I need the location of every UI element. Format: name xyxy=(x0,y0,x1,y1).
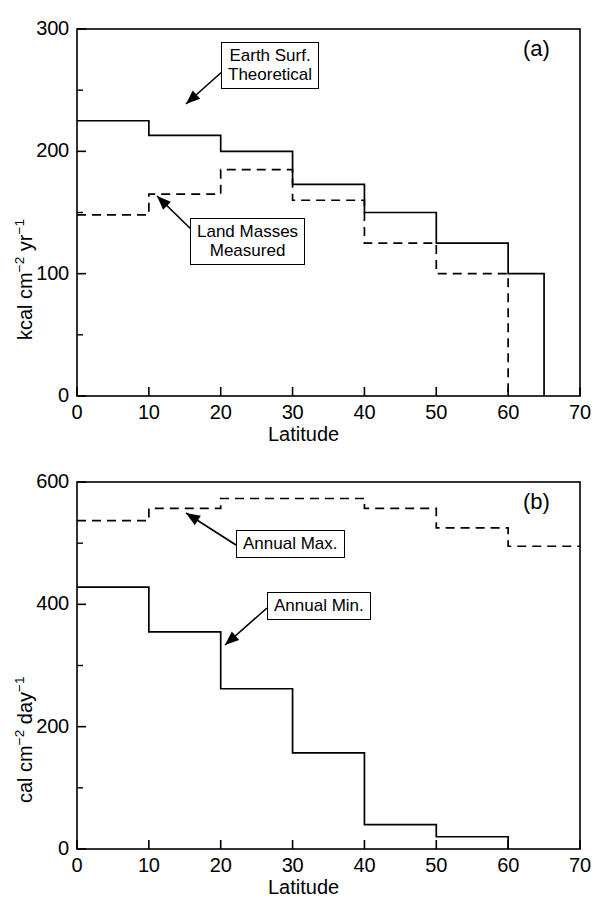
panel-b-xtick-label: 70 xyxy=(555,855,602,875)
callout-line-1: Land Masses xyxy=(197,222,298,241)
panel-b-xtick-label: 60 xyxy=(483,855,533,875)
panel-a-y-axis-title: kcal cm−2 yr−1 xyxy=(14,219,37,340)
panel-b-y-axis-title: cal cm−2 day−1 xyxy=(14,676,37,803)
y-axis-text: yr xyxy=(14,234,36,256)
y-axis-exponent: −1 xyxy=(12,219,27,235)
panel-b-ytick-label: 400 xyxy=(11,593,69,613)
y-axis-text: day xyxy=(14,692,36,730)
panel-a: 0 100 200 300 0 10 20 30 40 50 60 70 kca… xyxy=(0,0,602,453)
y-axis-text: kcal cm xyxy=(14,272,36,340)
panel-a-xtick-label: 70 xyxy=(555,402,602,422)
panel-b-xtick-label: 10 xyxy=(124,855,174,875)
callout-line-1: Annual Max. xyxy=(243,534,338,553)
panel-b-xtick-label: 50 xyxy=(411,855,461,875)
panel-a-ytick-label: 300 xyxy=(11,18,69,38)
series-line-earth-surf-theoretical xyxy=(77,121,544,396)
y-axis-exponent: −2 xyxy=(12,257,27,273)
callout-line-1: Annual Min. xyxy=(274,596,364,615)
callout-line-1: Earth Surf. xyxy=(229,46,310,65)
callout-annual-max: Annual Max. xyxy=(236,530,345,558)
series-line-land-masses-measured xyxy=(77,170,508,396)
panel-b-x-axis-title: Latitude xyxy=(268,876,339,899)
arrow-annual-max-head xyxy=(186,513,201,525)
series-line-annual-min xyxy=(77,587,508,849)
panel-b-ytick-label: 600 xyxy=(11,471,69,491)
panel-b-xtick-label: 0 xyxy=(52,855,102,875)
panel-a-xtick-label: 0 xyxy=(52,402,102,422)
panel-a-xtick-label: 20 xyxy=(196,402,246,422)
panel-b: 0 200 400 600 0 10 20 30 40 50 60 70 cal… xyxy=(0,453,602,906)
panel-a-xtick-label: 40 xyxy=(339,402,389,422)
panel-a-xtick-label: 50 xyxy=(411,402,461,422)
y-axis-exponent: −2 xyxy=(12,730,27,746)
panel-a-xtick-label: 60 xyxy=(483,402,533,422)
panel-a-tag: (a) xyxy=(523,36,550,62)
panel-a-axes xyxy=(77,29,580,396)
figure-solar-radiation-latitude: 0 100 200 300 0 10 20 30 40 50 60 70 kca… xyxy=(0,0,602,906)
callout-line-2: Measured xyxy=(197,241,298,260)
panel-b-plot xyxy=(0,453,602,906)
panel-a-x-axis-title: Latitude xyxy=(268,423,339,446)
plot-frame xyxy=(77,29,580,396)
callout-earth-surf-theoretical: Earth Surf. Theoretical xyxy=(221,42,319,89)
y-axis-text: cal cm xyxy=(14,745,36,803)
callout-annual-min: Annual Min. xyxy=(267,592,371,620)
panel-b-xtick-label: 20 xyxy=(196,855,246,875)
panel-b-xtick-label: 30 xyxy=(268,855,318,875)
panel-b-xtick-label: 40 xyxy=(339,855,389,875)
callout-land-masses-measured: Land Masses Measured xyxy=(190,218,305,265)
panel-a-ytick-label: 200 xyxy=(11,140,69,160)
y-axis-exponent: −1 xyxy=(12,676,27,692)
panel-a-xtick-label: 30 xyxy=(268,402,318,422)
panel-a-leader-arrows xyxy=(157,70,224,234)
panel-b-tag: (b) xyxy=(523,489,550,515)
callout-line-2: Theoretical xyxy=(228,65,312,84)
panel-a-series xyxy=(77,121,544,396)
panel-a-xtick-label: 10 xyxy=(124,402,174,422)
